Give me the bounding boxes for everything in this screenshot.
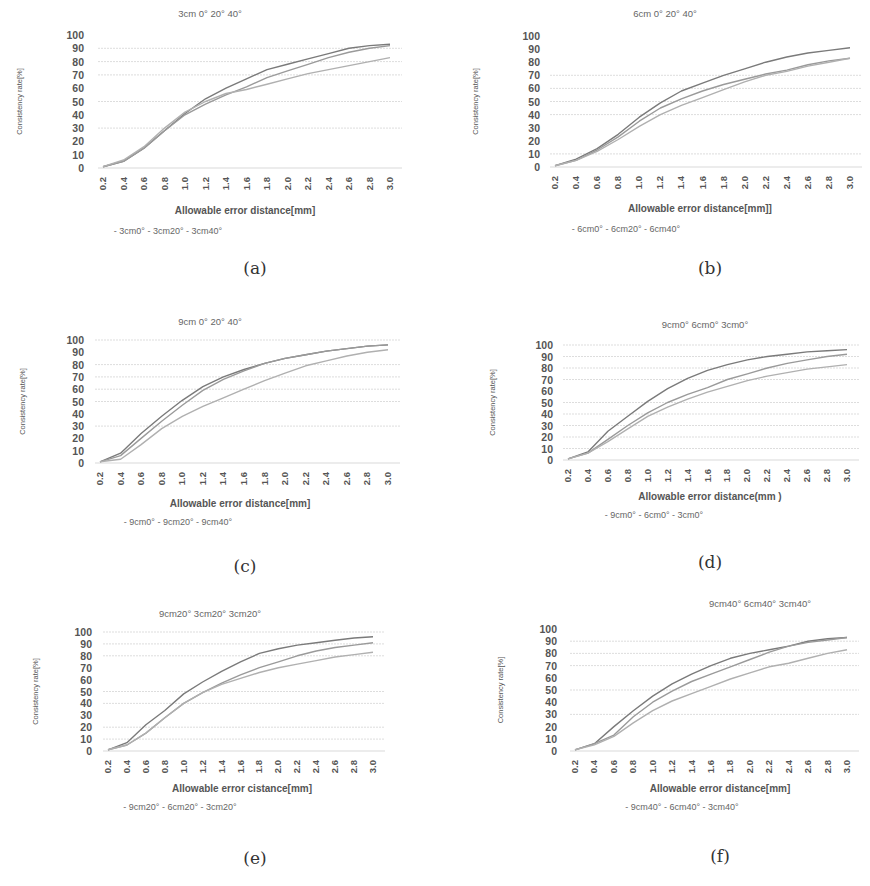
legend: - 6cm0° - 6cm20° - 6cm40° (572, 224, 681, 234)
x-tick-label: 0.6 (602, 469, 613, 482)
y-tick-label: 10 (541, 443, 553, 455)
x-tick-label: 0.2 (102, 760, 113, 773)
y-tick-label: 20 (72, 135, 84, 147)
x-tick-label: 3.0 (384, 177, 395, 190)
panel-label: (c) (234, 556, 257, 576)
x-tick-label: 1.8 (721, 469, 732, 482)
chart-title: 9cm 0° 20° 40° (178, 316, 242, 327)
x-tick-label: 1.6 (238, 472, 249, 485)
x-tick-label: 1.4 (220, 176, 231, 190)
x-axis-title: Allowable error distance[mm] (170, 498, 311, 509)
x-tick-label: 1.6 (705, 760, 716, 773)
y-tick-label: 30 (72, 122, 84, 134)
x-tick-label: 2.8 (822, 760, 833, 773)
x-tick-label: 1.6 (702, 469, 713, 482)
legend: - 9cm0° - 6cm0° - 3cm0° (605, 510, 704, 520)
y-tick-label: 20 (72, 432, 84, 444)
y-tick-label: 80 (80, 650, 92, 662)
x-tick-label: 3.0 (841, 469, 852, 482)
y-tick-label: 70 (528, 69, 540, 81)
y-axis-title: Consistency rate[%] (31, 658, 40, 725)
x-tick-label: 2.2 (761, 469, 772, 482)
y-tick-label: 0 (78, 457, 84, 469)
x-tick-label: 0.6 (135, 472, 146, 485)
x-tick-label: 1.6 (235, 760, 246, 773)
chart-title: 9cm0° 6cm0° 3cm0° (662, 319, 749, 330)
x-tick-label: 1.8 (259, 472, 270, 485)
figure-canvas: 0102030405060708090100Consistency rate[%… (0, 0, 870, 886)
y-tick-label: 100 (66, 334, 84, 346)
x-tick-label: 2.6 (802, 760, 813, 773)
y-tick-label: 50 (545, 684, 557, 696)
y-tick-label: 100 (539, 623, 557, 635)
chart-panel-b: 0102030405060708090100Consistency rate[%… (471, 8, 862, 278)
series-line-6cm40 (555, 58, 850, 165)
x-tick-label: 0.6 (138, 177, 149, 190)
y-tick-label: 10 (80, 733, 92, 745)
y-tick-label: 70 (80, 662, 92, 674)
y-tick-label: 60 (541, 385, 553, 397)
y-tick-label: 80 (545, 647, 557, 659)
y-tick-label: 100 (74, 626, 92, 638)
x-tick-label: 2.6 (801, 469, 812, 482)
x-tick-label: 2.8 (361, 472, 372, 485)
series-line-6cm20 (108, 643, 373, 750)
y-tick-label: 0 (551, 745, 557, 757)
y-tick-label: 0 (534, 161, 540, 173)
y-tick-label: 60 (545, 672, 557, 684)
panel-label: (e) (243, 848, 266, 868)
x-tick-label: 0.2 (562, 469, 573, 482)
y-tick-label: 20 (528, 135, 540, 147)
x-tick-label: 1.0 (179, 177, 190, 190)
x-tick-label: 0.6 (140, 760, 151, 773)
y-tick-label: 30 (72, 420, 84, 432)
series-line-6cm40 (575, 638, 847, 750)
y-tick-label: 0 (86, 745, 92, 757)
x-tick-label: 1.2 (654, 176, 665, 189)
x-axis-title: Allowable error distance[mm]] (628, 203, 772, 214)
x-tick-label: 0.6 (591, 176, 602, 189)
chart-panel-e: 0102030405060708090100Consistency rate[%… (31, 608, 385, 868)
x-tick-label: 0.6 (608, 760, 619, 773)
x-tick-label: 0.8 (627, 760, 638, 773)
y-tick-label: 90 (72, 42, 84, 54)
x-tick-label: 1.4 (675, 175, 686, 189)
y-axis-title: Consistency rate[%] (496, 657, 505, 724)
x-axis-title: Allowable error distance(mm ) (638, 491, 781, 502)
series-line-9cm0 (100, 345, 388, 462)
x-tick-label: 0.2 (569, 760, 580, 773)
x-tick-label: 1.8 (718, 176, 729, 189)
x-tick-label: 2.4 (781, 468, 792, 482)
y-tick-label: 80 (72, 359, 84, 371)
y-tick-label: 70 (72, 69, 84, 81)
y-tick-label: 40 (528, 109, 540, 121)
y-tick-label: 0 (78, 162, 84, 174)
y-tick-label: 50 (72, 96, 84, 108)
chart-title: 3cm 0° 20° 40° (178, 8, 242, 19)
x-tick-label: 0.4 (588, 759, 599, 773)
y-tick-label: 70 (541, 374, 553, 386)
x-tick-label: 2.8 (823, 176, 834, 189)
y-tick-label: 70 (545, 660, 557, 672)
x-tick-label: 2.4 (310, 759, 321, 773)
y-tick-label: 100 (522, 30, 540, 42)
y-tick-label: 50 (72, 396, 84, 408)
series-line-9cm40 (100, 350, 388, 462)
panel-label: (d) (698, 552, 722, 572)
x-tick-label: 0.2 (97, 177, 108, 190)
x-tick-label: 1.6 (241, 177, 252, 190)
y-tick-label: 30 (80, 709, 92, 721)
y-tick-label: 50 (528, 96, 540, 108)
x-tick-label: 2.2 (300, 472, 311, 485)
y-tick-label: 40 (72, 109, 84, 121)
x-tick-label: 1.2 (200, 177, 211, 190)
legend: - 9cm20° - 6cm20° - 3cm20° (123, 802, 237, 812)
x-tick-label: 0.8 (159, 760, 170, 773)
series-line-3cm20 (108, 652, 373, 750)
panel-label: (b) (698, 258, 722, 278)
x-tick-label: 3.0 (367, 760, 378, 773)
x-tick-label: 2.0 (739, 176, 750, 189)
x-tick-label: 0.8 (156, 472, 167, 485)
series-line-3cm40 (103, 58, 390, 167)
y-tick-label: 100 (535, 339, 553, 351)
